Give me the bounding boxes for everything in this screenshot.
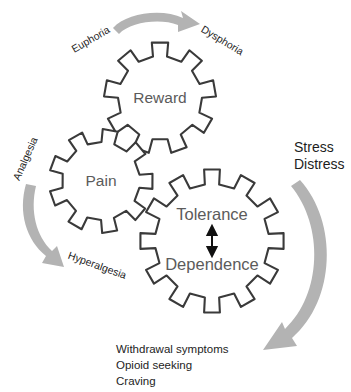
label-dysphoria: Dysphoria xyxy=(199,23,246,58)
label-craving: Craving xyxy=(116,375,156,387)
gear-pain[interactable]: Pain xyxy=(50,129,152,233)
gear-reward[interactable]: Reward xyxy=(104,43,216,153)
label-stress: Stress xyxy=(294,139,334,155)
gear-tolerance-dependence[interactable]: Tolerance Dependence xyxy=(140,169,283,312)
euphoria-to-dysphoria-arrow xyxy=(113,11,200,34)
label-opioid-seeking: Opioid seeking xyxy=(116,359,192,371)
label-distress: Distress xyxy=(294,156,345,172)
diagram-canvas: Reward Pain Tolerance Dependence Euphori… xyxy=(0,0,351,392)
label-hyperalgesia: Hyperalgesia xyxy=(67,249,129,281)
label-analgesia: Analgesia xyxy=(10,135,40,182)
gear-pain-label: Pain xyxy=(85,172,116,189)
gear-cycle-diagram: Reward Pain Tolerance Dependence Euphori… xyxy=(0,0,351,392)
gear-tolerance-label: Tolerance xyxy=(176,205,248,223)
gear-reward-label: Reward xyxy=(133,89,186,106)
label-withdrawal-symptoms: Withdrawal symptoms xyxy=(116,343,229,355)
label-euphoria: Euphoria xyxy=(69,23,112,54)
